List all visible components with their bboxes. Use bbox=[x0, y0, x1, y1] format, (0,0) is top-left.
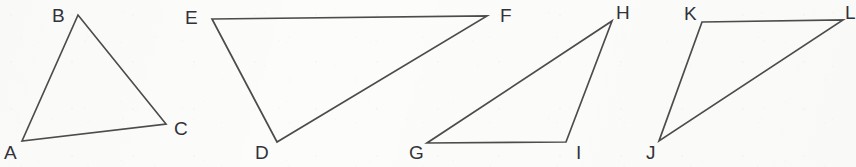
vertex-label-c: C bbox=[174, 119, 188, 138]
triangle-def bbox=[212, 16, 487, 142]
vertex-label-j: J bbox=[646, 143, 656, 162]
vertex-label-k: K bbox=[684, 4, 697, 23]
vertex-label-a: A bbox=[4, 143, 17, 162]
triangle-abc bbox=[22, 15, 166, 141]
vertex-label-g: G bbox=[409, 143, 424, 162]
vertex-label-f: F bbox=[500, 6, 512, 25]
vertex-label-b: B bbox=[52, 6, 65, 25]
vertex-label-e: E bbox=[185, 8, 198, 27]
triangles-svg-layer bbox=[0, 0, 856, 167]
vertex-label-h: H bbox=[616, 3, 630, 22]
vertex-label-i: I bbox=[576, 143, 581, 162]
vertex-label-d: D bbox=[255, 143, 269, 162]
figure-canvas: A B C E F D G H I J K L bbox=[0, 0, 856, 167]
triangle-ghi bbox=[427, 21, 612, 143]
triangle-jkl bbox=[659, 20, 843, 141]
vertex-label-l: L bbox=[845, 3, 856, 22]
